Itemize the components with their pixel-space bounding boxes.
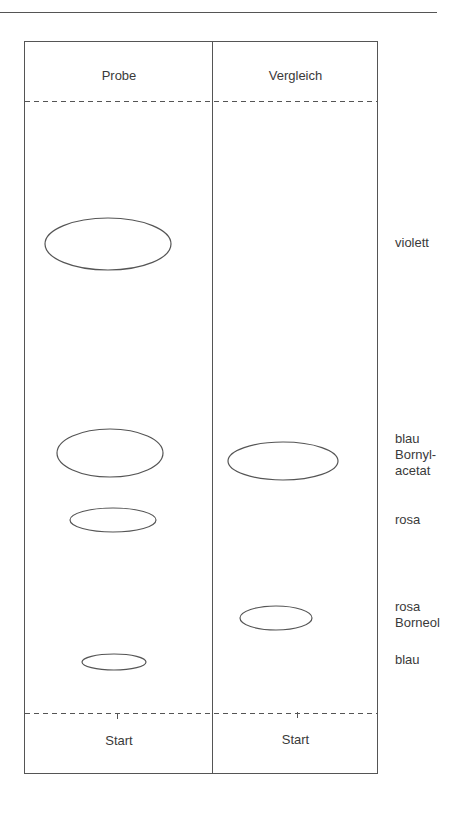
spot-probe-0: [45, 218, 171, 270]
side-label-line: acetat: [395, 463, 436, 479]
side-label: blau: [395, 652, 420, 668]
side-label: rosaBorneol: [395, 599, 440, 631]
lane-footer-probe: Start: [25, 733, 213, 748]
side-label: violett: [395, 235, 429, 251]
side-label-line: violett: [395, 235, 429, 251]
spot-probe-1: [57, 429, 163, 477]
lane-footer-vergleich: Start: [213, 732, 378, 747]
side-label-line: rosa: [395, 599, 440, 615]
spot-vergleich-4: [228, 442, 338, 480]
lane-header-vergleich: Vergleich: [213, 68, 378, 83]
side-label-line: Borneol: [395, 615, 440, 631]
plate-border: [25, 42, 378, 774]
side-label-line: blau: [395, 431, 436, 447]
side-label-line: rosa: [395, 512, 420, 528]
side-label-line: blau: [395, 652, 420, 668]
side-label: blauBornyl-acetat: [395, 431, 436, 479]
lane-header-probe: Probe: [25, 68, 213, 83]
spot-probe-3: [82, 654, 146, 670]
side-label: rosa: [395, 512, 420, 528]
tlc-plate: [0, 0, 465, 831]
spot-probe-2: [70, 508, 156, 532]
side-label-line: Bornyl-: [395, 447, 436, 463]
spot-vergleich-5: [240, 606, 312, 630]
